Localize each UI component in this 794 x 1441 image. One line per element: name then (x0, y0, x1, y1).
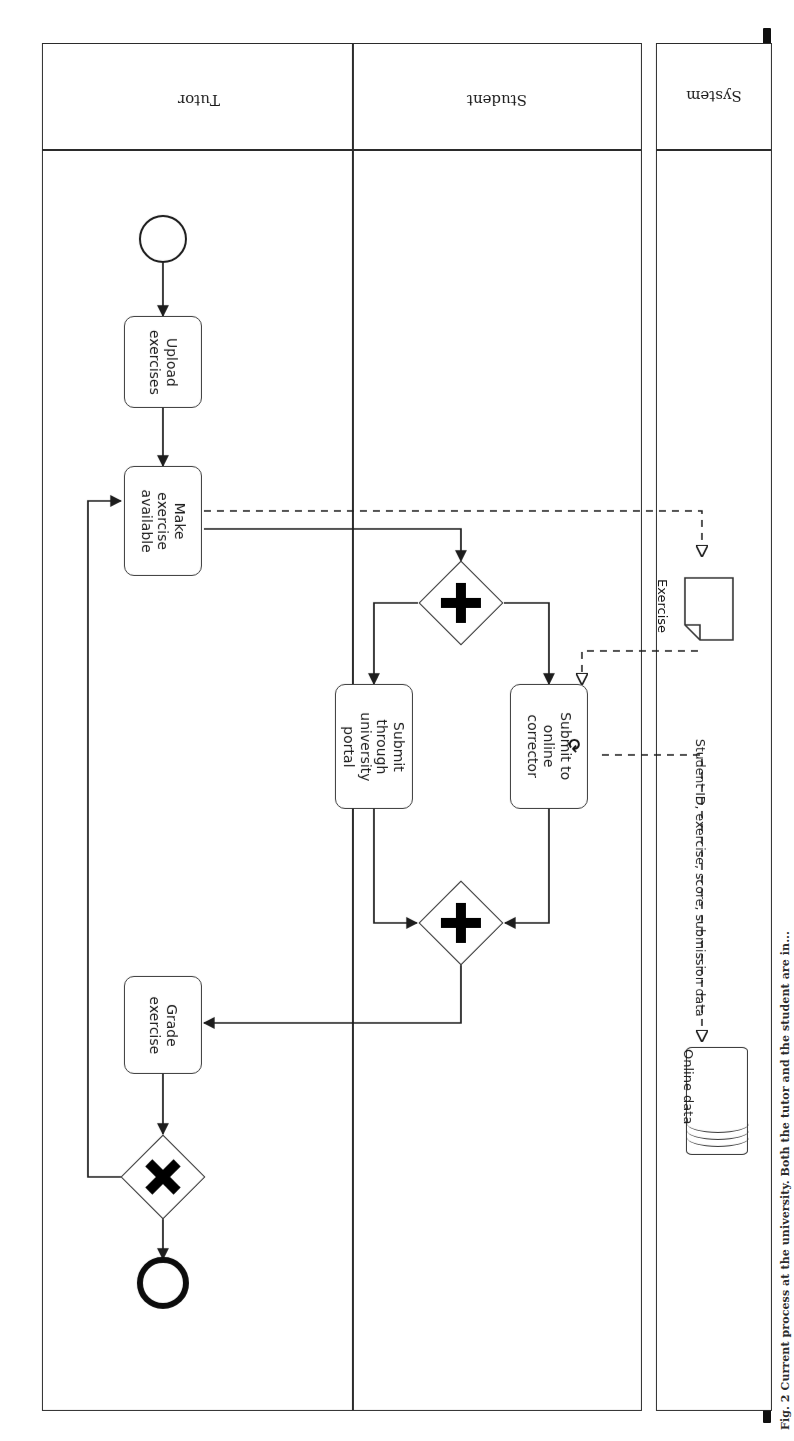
pool-system (656, 43, 772, 1411)
bpmn-diagram: System Student Tutor (0, 0, 794, 1441)
data-store-online-data-label: Online data (681, 1049, 696, 1124)
task-submit-to-online-corrector[interactable]: Submit to online corrector ⟳ (510, 684, 588, 809)
task-make-exercise-available[interactable]: Make exercise available (124, 466, 202, 576)
scanned-page: Fig. 2 Current process at the university… (0, 0, 794, 1441)
task-grade-exercise[interactable]: Grade exercise (124, 976, 202, 1074)
data-object-exercise[interactable] (684, 577, 734, 641)
task-submit-through-university-portal[interactable]: Submit through university portal (335, 684, 413, 809)
start-event[interactable] (139, 215, 187, 263)
task-make-exercise-available-label: Make exercise available (138, 489, 188, 552)
loop-marker-icon: ⟳ (565, 739, 582, 753)
end-event[interactable] (137, 1257, 189, 1309)
task-grade-exercise-label: Grade exercise (146, 996, 179, 1054)
task-upload-exercises-label: Upload exercises (146, 329, 179, 394)
task-upload-exercises[interactable]: Upload exercises (124, 316, 202, 408)
pool-system-header-divider (656, 149, 772, 151)
data-object-exercise-label: Exercise (655, 579, 670, 633)
task-submit-through-university-portal-label: Submit through university portal (341, 712, 407, 781)
pool-system-label: System (656, 87, 772, 105)
lane-label-student: Student (412, 91, 582, 109)
lane-header-divider (42, 149, 642, 151)
data-store-lip-3 (687, 1114, 749, 1133)
lane-label-tutor: Tutor (114, 91, 284, 109)
data-object-shape (684, 577, 734, 641)
annotation-submission-data: Student ID, exercise, score, submission … (693, 739, 708, 1017)
